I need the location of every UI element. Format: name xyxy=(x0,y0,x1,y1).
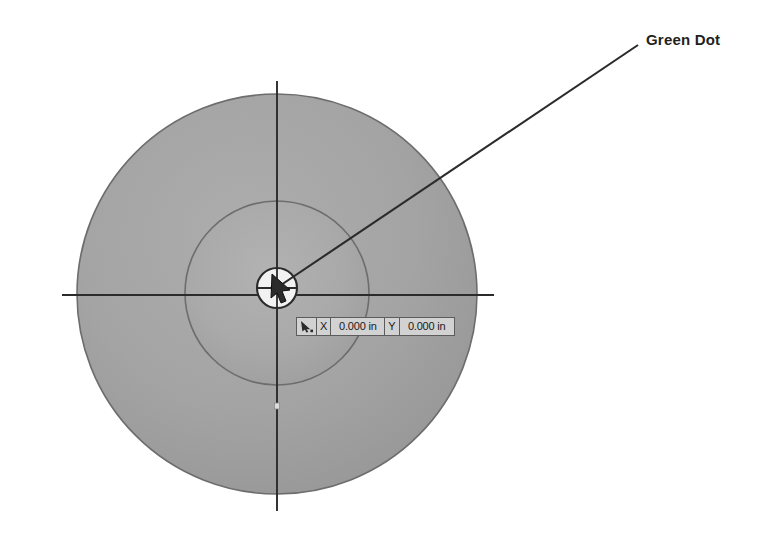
x-axis-label: X xyxy=(317,318,331,335)
y-coordinate-value[interactable]: 0.000 in xyxy=(400,318,454,335)
coordinate-readout[interactable]: X 0.000 in Y 0.000 in xyxy=(296,317,455,336)
sketch-point-marker[interactable] xyxy=(275,403,280,409)
cad-sketch-screenshot: Green Dot X 0.000 in Y 0.000 in xyxy=(0,0,774,543)
x-coordinate-value[interactable]: 0.000 in xyxy=(331,318,385,335)
annotation-label: Green Dot xyxy=(646,31,720,48)
cursor-arrow-icon xyxy=(297,318,317,335)
cad-drawing-canvas[interactable] xyxy=(0,0,774,543)
y-axis-label: Y xyxy=(385,318,399,335)
